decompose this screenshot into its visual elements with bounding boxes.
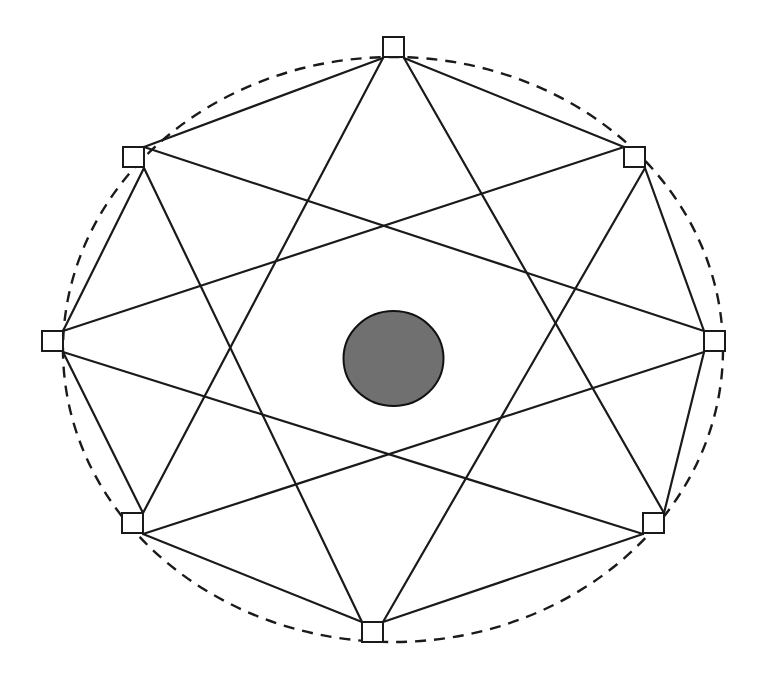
center-circle (344, 311, 444, 406)
node-lower-right (643, 513, 664, 533)
node-top (383, 37, 404, 57)
node-upper-left (123, 147, 144, 167)
node-upper-right (624, 147, 645, 167)
node-bottom (362, 622, 383, 642)
node-lower-left (122, 513, 143, 533)
node-left (42, 331, 63, 351)
node-right (704, 331, 725, 351)
network-diagram (0, 0, 761, 679)
